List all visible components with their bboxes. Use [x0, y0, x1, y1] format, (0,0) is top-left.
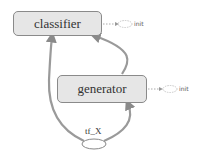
init-node-classifier[interactable] [118, 21, 132, 28]
generator-node[interactable]: generator [57, 75, 147, 103]
classifier-node[interactable]: classifier [13, 11, 102, 36]
tf-x-label: tf_X [85, 126, 102, 136]
init-node-generator[interactable] [163, 86, 177, 93]
init-label-generator: init [179, 85, 189, 92]
edge-tfx-generator [104, 104, 130, 141]
edge-generator-classifier [95, 36, 128, 74]
init-label-classifier: init [134, 20, 144, 27]
generator-label: generator [77, 81, 126, 97]
tf-x-node[interactable] [82, 139, 106, 149]
classifier-label: classifier [34, 16, 81, 32]
